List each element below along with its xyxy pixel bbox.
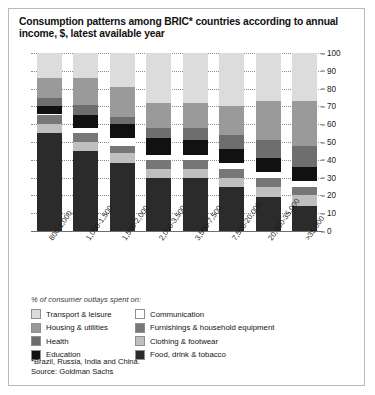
chart-card: Consumption patterns among BRIC* countri… (8, 8, 365, 386)
bar-segment[interactable] (256, 187, 281, 198)
bar-segment[interactable] (183, 140, 208, 154)
bar-series-group (31, 53, 323, 231)
bar-slot (177, 53, 214, 231)
legend-item[interactable]: Clothing & footwear (135, 336, 218, 346)
bar-segment[interactable] (37, 53, 62, 78)
bar-segment[interactable] (292, 101, 317, 146)
legend-swatch-icon (31, 309, 41, 319)
bar-segment[interactable] (37, 124, 62, 133)
legend-swatch-icon (135, 309, 145, 319)
bar-segment[interactable] (183, 160, 208, 169)
y-axis-tick-label: 30 (327, 173, 336, 182)
bar-segment[interactable] (256, 53, 281, 101)
bar-segment[interactable] (37, 133, 62, 231)
stacked-bar[interactable] (219, 53, 244, 231)
bar-segment[interactable] (146, 138, 171, 154)
x-axis-labels: 800-1,0001,000-1,5001,500-2,0002,000-3,5… (31, 235, 323, 291)
legend-swatch-icon (31, 336, 41, 346)
bar-segment[interactable] (219, 169, 244, 178)
bar-segment[interactable] (146, 103, 171, 128)
bar-segment[interactable] (110, 117, 135, 124)
stacked-bar[interactable] (110, 53, 135, 231)
legend-swatch-icon (135, 323, 145, 333)
legend-item-label: Housing & utilities (46, 323, 108, 332)
bar-segment[interactable] (73, 53, 98, 78)
chart-title: Consumption patterns among BRIC* countri… (19, 16, 359, 40)
bar-segment[interactable] (183, 103, 208, 128)
bar-segment[interactable] (256, 158, 281, 172)
bar-segment[interactable] (292, 187, 317, 196)
y-axis-tick-mark (321, 231, 325, 232)
chart-footnote: *Brazil, Russia, India and China. Source… (31, 357, 140, 377)
bar-segment[interactable] (219, 106, 244, 134)
bar-segment[interactable] (256, 101, 281, 140)
y-axis-tick-label: 20 (327, 191, 336, 200)
bar-segment[interactable] (292, 146, 317, 167)
bar-segment[interactable] (256, 178, 281, 187)
y-axis-tick-label: 70 (327, 102, 336, 111)
bar-segment[interactable] (183, 169, 208, 178)
x-axis-label-slot: >35,000 (287, 235, 324, 291)
y-axis-tick-label: 100 (327, 49, 341, 58)
bar-segment[interactable] (110, 87, 135, 117)
y-axis-tick-label: 90 (327, 66, 336, 75)
bar-segment[interactable] (183, 53, 208, 103)
legend-row: Housing & utilitiesFurnishings & househo… (31, 323, 351, 333)
bar-segment[interactable] (37, 115, 62, 124)
legend-item[interactable]: Health (31, 336, 135, 346)
y-axis-tick-label: 60 (327, 120, 336, 129)
x-axis-label-slot: 3,500-7,500 (177, 235, 214, 291)
legend-item-label: Clothing & footwear (150, 337, 218, 346)
bar-segment[interactable] (183, 128, 208, 140)
bar-segment[interactable] (146, 53, 171, 103)
bar-segment[interactable] (73, 133, 98, 142)
legend-item[interactable]: Transport & leisure (31, 309, 135, 319)
legend-item[interactable]: Furnishings & household equipment (135, 323, 274, 333)
x-axis-label-slot: 2,000-3,500 (141, 235, 178, 291)
bar-segment[interactable] (219, 53, 244, 106)
bar-segment[interactable] (73, 142, 98, 151)
bar-segment[interactable] (146, 128, 171, 139)
bar-segment[interactable] (73, 78, 98, 105)
stacked-bar[interactable] (146, 53, 171, 231)
x-axis-label-slot: 1,000-1,500 (68, 235, 105, 291)
bar-segment[interactable] (292, 53, 317, 101)
x-axis-label-slot: 20,000-35,000 (250, 235, 287, 291)
bar-segment[interactable] (219, 149, 244, 163)
x-axis-label-slot: 1,500-2,000 (104, 235, 141, 291)
bar-slot (214, 53, 251, 231)
plot-area: 0102030405060708090100 (31, 53, 323, 231)
y-axis-tick-label: 10 (327, 209, 336, 218)
stacked-bar[interactable] (37, 53, 62, 231)
bar-segment[interactable] (37, 106, 62, 113)
bar-segment[interactable] (292, 167, 317, 181)
bar-segment[interactable] (73, 115, 98, 127)
legend-item-label: Health (46, 337, 69, 346)
bar-segment[interactable] (73, 105, 98, 116)
y-axis-tick-label: 40 (327, 155, 336, 164)
bar-segment[interactable] (110, 153, 135, 164)
footnote-source: Source: Goldman Sachs (31, 367, 140, 377)
bar-segment[interactable] (256, 140, 281, 158)
bar-segment[interactable] (37, 98, 62, 107)
legend-item[interactable]: Communication (135, 309, 204, 319)
bar-segment[interactable] (37, 78, 62, 98)
legend-item[interactable]: Food, drink & tobacco (135, 350, 226, 360)
bar-segment[interactable] (110, 146, 135, 153)
bar-segment[interactable] (146, 160, 171, 169)
bar-segment[interactable] (73, 151, 98, 231)
bar-segment[interactable] (110, 124, 135, 138)
bar-segment[interactable] (219, 135, 244, 149)
legend-rows: Transport & leisureCommunicationHousing … (31, 309, 351, 360)
bar-segment[interactable] (146, 169, 171, 178)
bar-slot (68, 53, 105, 231)
legend-item-label: Furnishings & household equipment (150, 323, 274, 332)
legend-item[interactable]: Housing & utilities (31, 323, 135, 333)
stacked-bar[interactable] (183, 53, 208, 231)
bar-segment[interactable] (110, 53, 135, 87)
y-axis-tick-label: 80 (327, 84, 336, 93)
bar-slot (104, 53, 141, 231)
bar-segment[interactable] (110, 138, 135, 145)
bar-segment[interactable] (219, 178, 244, 187)
stacked-bar[interactable] (73, 53, 98, 231)
